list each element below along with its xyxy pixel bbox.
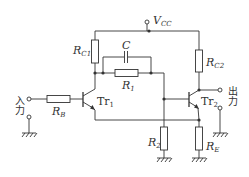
vcc-label: VCC [153, 15, 172, 28]
input-terminal[interactable] [27, 97, 31, 101]
ground-icon [213, 133, 228, 137]
supply-rail [95, 31, 199, 50]
r1-label: R1 [122, 80, 135, 93]
re-resistor [196, 127, 203, 150]
rc2-resistor [196, 50, 203, 72]
input-label: 入力 [13, 95, 24, 115]
rb-label: RB [52, 106, 65, 119]
ground-icon [192, 158, 207, 162]
r1-resistor [115, 70, 138, 77]
tr2-label: Tr2 [201, 96, 218, 109]
ground-icon [22, 133, 37, 137]
output-label: 出力 [226, 86, 237, 106]
ground-icon [157, 158, 172, 162]
rb-resistor [47, 96, 70, 103]
rc1-label: RC1 [73, 45, 91, 58]
rc2-label: RC2 [206, 57, 224, 70]
input-ground-terminal[interactable] [27, 115, 31, 119]
tr1-label: Tr1 [97, 96, 114, 109]
output-ground-terminal[interactable] [218, 106, 222, 110]
output-terminal[interactable] [218, 88, 222, 92]
rc1-resistor [92, 40, 99, 63]
c-label: C [122, 40, 130, 51]
tr2-transistor [164, 90, 199, 120]
r2-resistor [161, 127, 168, 150]
vcc-terminal [145, 20, 149, 31]
r2-label: R2 [148, 137, 161, 150]
re-label: RE [206, 141, 219, 154]
circuit-diagram: VCC RC1 RC2 C R1 RB R2 RE Tr1 Tr2 入力 出力 [0, 0, 249, 177]
